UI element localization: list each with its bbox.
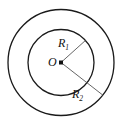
inner-radius-label: R1 <box>58 37 69 52</box>
concentric-circles-diagram <box>0 0 124 125</box>
inner-radius-label-subscript: 1 <box>65 43 69 52</box>
outer-radius-label: R2 <box>72 88 83 103</box>
center-label-o: O <box>48 56 57 68</box>
figure-canvas: O R1 R2 <box>0 0 124 125</box>
outer-radius-label-subscript: 2 <box>79 94 83 103</box>
center-point-marker <box>59 61 63 65</box>
